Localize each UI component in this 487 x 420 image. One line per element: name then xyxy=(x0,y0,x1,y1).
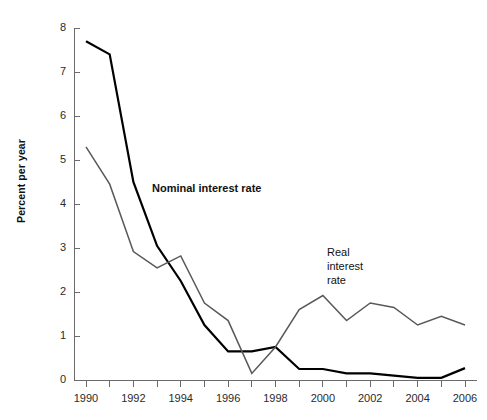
x-tick-label: 2000 xyxy=(303,392,343,404)
series-label-real: Real interest rate xyxy=(327,245,363,287)
y-tick-label: 0 xyxy=(48,373,66,385)
y-tick-label: 2 xyxy=(48,285,66,297)
x-tick-label: 1998 xyxy=(256,392,296,404)
x-tick-label: 1996 xyxy=(208,392,248,404)
y-tick-label: 3 xyxy=(48,241,66,253)
interest-rate-line-chart: Percent per year 012345678 1990199219941… xyxy=(0,0,487,420)
y-tick-label: 7 xyxy=(48,65,66,77)
series-label-nominal: Nominal interest rate xyxy=(152,181,261,195)
y-tick-label: 8 xyxy=(48,21,66,33)
x-tick-label: 2002 xyxy=(350,392,390,404)
y-axis-title: Percent per year xyxy=(15,126,27,236)
y-tick-label: 4 xyxy=(48,197,66,209)
x-tick-label: 1992 xyxy=(113,392,153,404)
chart-plot-area xyxy=(0,0,487,420)
series-line-nominal-interest-rate xyxy=(86,41,465,378)
x-tick-label: 1990 xyxy=(66,392,106,404)
y-tick-label: 5 xyxy=(48,153,66,165)
y-tick-label: 1 xyxy=(48,329,66,341)
y-tick-label: 6 xyxy=(48,109,66,121)
x-tick-label: 1994 xyxy=(161,392,201,404)
x-tick-label: 2004 xyxy=(398,392,438,404)
series-label-real-line2: interest xyxy=(327,259,363,273)
series-label-real-line1: Real xyxy=(327,245,363,259)
x-tick-label: 2006 xyxy=(445,392,485,404)
axes xyxy=(74,28,477,387)
series-label-real-line3: rate xyxy=(327,273,363,287)
data-series xyxy=(86,41,465,378)
series-line-real-interest-rate xyxy=(86,147,465,374)
